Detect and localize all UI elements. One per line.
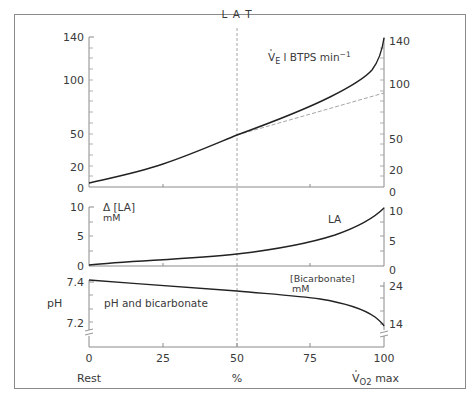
mid-ytick-right: 10: [389, 205, 403, 218]
la-series-label: LA: [328, 213, 342, 225]
ph-series-label: pH and bicarbonate: [104, 297, 208, 309]
top-ytick-right: 20: [389, 164, 403, 177]
top-ytick-right: 100: [389, 78, 410, 91]
top-left-minor-ticks: [89, 48, 93, 176]
top-panel: 140 100 50 20 0 140 100 50 20 0 VE l BTP…: [63, 31, 410, 199]
mid-ytick-left: 5: [77, 230, 84, 243]
bot-ytick-left: 7.2: [67, 317, 85, 330]
top-ytick-left: 20: [70, 161, 84, 174]
top-right-minor-ticks: [380, 48, 384, 176]
mid-ytick-left: 0: [77, 260, 84, 273]
axis-break-right: [380, 331, 388, 337]
la-axis-unit: mM: [103, 212, 120, 223]
axis-break-left: [85, 329, 93, 335]
mid-ytick-right: 0: [389, 264, 396, 277]
lat-label: L A T: [221, 8, 252, 20]
x-label-percent: %: [232, 372, 242, 385]
chart-figure: L A T 140 100 50 20 0: [0, 0, 472, 403]
mid-ytick-left: 10: [70, 201, 84, 214]
top-ytick-left: 50: [70, 128, 84, 141]
x-axis: 0 25 50 75 100 Rest % VO2 max: [77, 352, 400, 387]
ve-extrapolation-line: [237, 93, 384, 135]
xtick: 25: [156, 352, 170, 365]
xtick: 100: [374, 352, 395, 365]
bot-ytick-left: 7.4: [67, 276, 85, 289]
xtick: 0: [86, 352, 93, 365]
top-ytick-left: 100: [63, 74, 84, 87]
bot-ytick-right: 14: [389, 318, 403, 331]
top-ytick-right: 0: [389, 186, 396, 199]
ve-curve: [89, 38, 384, 183]
mid-ytick-right: 5: [389, 235, 396, 248]
ve-axis-label: VE l BTPS min−1: [268, 50, 351, 66]
top-ytick-left: 0: [77, 182, 84, 195]
ph-axis-label: pH: [47, 297, 62, 310]
bot-ytick-right: 24: [389, 280, 403, 293]
top-ytick-left: 140: [63, 31, 84, 44]
xtick: 75: [303, 352, 317, 365]
x-label-rest: Rest: [77, 372, 102, 385]
middle-panel: 10 5 0 10 5 0 Δ [LA] mM LA: [70, 201, 403, 277]
ve-dot-accent: [270, 49, 272, 51]
bottom-panel: 7.4 7.2 24 14 pH pH and bicarbonate [Bic…: [47, 273, 403, 347]
vo2-dot-accent: [355, 370, 357, 372]
xtick: 50: [230, 352, 244, 365]
top-ytick-right: 50: [389, 133, 403, 146]
bicarbonate-axis-unit: mM: [292, 283, 309, 294]
top-ytick-right: 140: [389, 35, 410, 48]
x-label-vo2max: VO2 max: [352, 372, 400, 387]
